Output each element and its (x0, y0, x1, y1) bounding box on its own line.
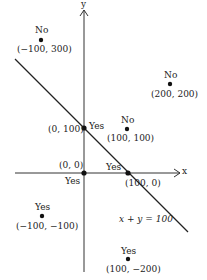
y-axis (80, 10, 88, 272)
diagram-canvas (0, 0, 207, 280)
point-coord: (0, 0) (59, 161, 83, 170)
point-coord: (−100, 300) (17, 45, 72, 54)
point-answer: Yes (89, 122, 104, 131)
point-coord: (100, 100) (107, 134, 154, 143)
point-coord: (100, −200) (106, 265, 161, 274)
point-coord: (200, 200) (151, 90, 198, 99)
point-answer: Yes (65, 177, 80, 186)
point-answer: Yes (35, 203, 50, 212)
point-coord: (−100, −100) (16, 222, 78, 231)
y-axis-label: y (81, 0, 86, 9)
point-answer: Yes (121, 247, 136, 256)
line-equation-label: x + y = 100 (119, 215, 173, 224)
point-answer: Yes (106, 163, 121, 172)
point-answer: No (121, 116, 134, 125)
x-axis-label: x (182, 167, 187, 176)
point-coord: (0, 100) (48, 125, 84, 134)
x-axis (15, 169, 180, 177)
point-coord: (100, 0) (125, 179, 161, 188)
point-answer: No (164, 71, 177, 80)
point-answer: No (35, 26, 48, 35)
